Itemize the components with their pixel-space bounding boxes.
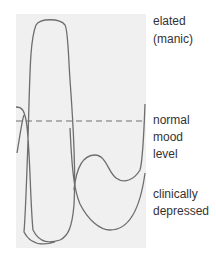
label-mood: mood (153, 129, 183, 146)
label-clinically: clinically (153, 186, 198, 203)
label-elated: elated (153, 13, 186, 30)
mood-curve-3 (70, 128, 145, 230)
label-depressed: depressed (153, 203, 209, 220)
label-normal: normal (153, 112, 190, 129)
mood-curve-1 (16, 20, 75, 244)
mood-curve-4 (74, 104, 145, 190)
label-level: level (153, 146, 178, 163)
label-manic: (manic) (153, 31, 193, 48)
